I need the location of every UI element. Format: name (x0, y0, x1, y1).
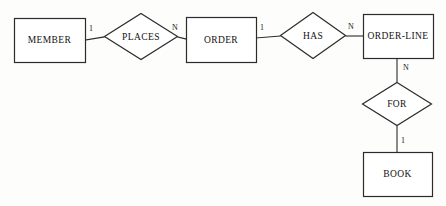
cardinality-card-order-has: 1 (260, 24, 264, 32)
cardinality-card-has-orderline: N (348, 23, 354, 31)
relationship-diamond-places[interactable] (105, 14, 178, 60)
cardinality-card-orderline-for: N (403, 64, 409, 72)
entity-box-order[interactable] (187, 18, 257, 63)
connector-places-order (178, 37, 186, 39)
relationship-diamond-has[interactable] (281, 13, 346, 59)
connector-order-has (256, 36, 280, 38)
connector-member-places (85, 37, 104, 40)
cardinality-card-for-book: 1 (401, 137, 405, 145)
shape-layer (15, 13, 434, 197)
entity-box-member[interactable] (15, 19, 86, 63)
entity-box-order_line[interactable] (364, 15, 434, 59)
er-diagram-canvas: MEMBERORDERORDER-LINEBOOKPLACESHASFOR 1N… (0, 0, 446, 206)
er-diagram-svg (0, 0, 446, 206)
cardinality-card-member: 1 (89, 25, 93, 33)
relationship-diamond-for[interactable] (363, 83, 432, 126)
entity-box-book[interactable] (364, 153, 433, 197)
cardinality-card-places-order: N (172, 24, 178, 32)
